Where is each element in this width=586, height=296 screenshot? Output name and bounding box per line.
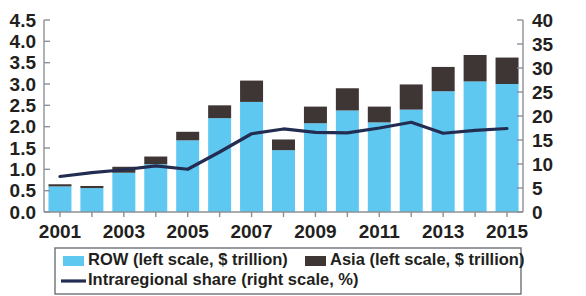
bar-segment-asia xyxy=(208,105,231,118)
right-axis-tick-label: 10 xyxy=(532,154,553,175)
left-axis-tick-label: 2.0 xyxy=(10,116,36,137)
left-axis-tick-label: 0.5 xyxy=(10,180,37,201)
x-axis-tick-label: 2003 xyxy=(103,221,145,242)
legend-swatch xyxy=(305,256,326,266)
bar-segment-row xyxy=(240,102,263,212)
bar-segment-asia xyxy=(48,184,71,186)
x-axis-tick-label: 2009 xyxy=(294,221,336,242)
bar-segment-row xyxy=(144,164,167,212)
bar-segment-row xyxy=(48,186,71,212)
right-axis-tick-label: 5 xyxy=(532,178,543,199)
bar-segment-row xyxy=(80,188,103,212)
bar-segment-row xyxy=(304,123,327,212)
right-axis-tick-label: 20 xyxy=(532,106,553,127)
bar-segment-row xyxy=(176,140,199,212)
bar-segment-asia xyxy=(144,157,167,165)
bar-group xyxy=(368,107,391,212)
bar-group xyxy=(464,55,487,212)
right-axis-tick-label: 0 xyxy=(532,202,543,223)
bar-segment-asia xyxy=(464,55,487,81)
bar-segment-asia xyxy=(336,88,359,110)
x-axis-tick-label: 2013 xyxy=(422,221,464,242)
legend-label: Asia (left scale, $ trillion) xyxy=(330,250,524,268)
x-axis-tick-label: 2005 xyxy=(167,221,210,242)
x-axis-tick-label: 2011 xyxy=(359,221,401,242)
x-axis-tick-label: 2001 xyxy=(39,221,82,242)
left-axis-tick-label: 4.5 xyxy=(10,10,37,31)
bar-group xyxy=(112,167,135,212)
stacked-bar-line-chart: 0.00.51.01.52.02.53.03.54.04.50510152025… xyxy=(0,0,586,296)
left-axis-tick-label: 3.0 xyxy=(10,74,36,95)
bar-segment-asia xyxy=(400,84,423,109)
left-axis-tick-label: 3.5 xyxy=(10,52,37,73)
left-axis-tick-label: 1.5 xyxy=(10,138,37,159)
bar-segment-row xyxy=(272,150,295,212)
bar-segment-asia xyxy=(368,107,391,123)
bar-segment-asia xyxy=(176,132,199,141)
bar-group xyxy=(240,81,263,212)
left-axis-tick-label: 0.0 xyxy=(10,202,36,223)
bar-segment-asia xyxy=(80,186,103,188)
legend-swatch xyxy=(63,256,84,266)
right-axis-tick-label: 25 xyxy=(532,82,554,103)
bar-segment-row xyxy=(208,118,231,212)
bar-group xyxy=(432,67,455,212)
right-axis-tick-label: 35 xyxy=(532,34,554,55)
x-axis-tick-label: 2015 xyxy=(486,221,529,242)
legend-label: ROW (left scale, $ trillion) xyxy=(88,250,288,268)
bar-group xyxy=(272,139,295,212)
bar-segment-asia xyxy=(432,67,455,91)
bar-segment-row xyxy=(368,122,391,212)
bar-group xyxy=(176,132,199,212)
right-axis-tick-label: 40 xyxy=(532,10,553,31)
bar-group xyxy=(400,84,423,212)
bar-segment-row xyxy=(336,110,359,212)
bar-segment-asia xyxy=(496,58,519,84)
bar-segment-row xyxy=(432,91,455,212)
chart-legend: ROW (left scale, $ trillion)Asia (left s… xyxy=(55,248,524,294)
left-axis-tick-label: 1.0 xyxy=(10,159,36,180)
left-axis-tick-label: 2.5 xyxy=(10,95,37,116)
legend-label: Intraregional share (right scale, %) xyxy=(88,270,359,288)
bar-segment-row xyxy=(464,81,487,212)
right-axis-tick-label: 30 xyxy=(532,58,553,79)
bar-segment-asia xyxy=(304,107,327,124)
chart-figure: 0.00.51.01.52.02.53.03.54.04.50510152025… xyxy=(0,0,586,296)
right-axis-tick-label: 15 xyxy=(532,130,554,151)
bar-group xyxy=(304,107,327,212)
bar-group xyxy=(496,58,519,212)
bar-segment-row xyxy=(496,84,519,212)
x-axis-tick-label: 2007 xyxy=(230,221,272,242)
bar-group xyxy=(208,105,231,212)
bar-segment-asia xyxy=(272,139,295,150)
bar-group xyxy=(336,88,359,212)
bar-group xyxy=(48,184,71,212)
left-axis-tick-label: 4.0 xyxy=(10,31,36,52)
bar-segment-asia xyxy=(240,81,263,102)
bar-group xyxy=(80,186,103,212)
bar-segment-row xyxy=(112,173,135,212)
